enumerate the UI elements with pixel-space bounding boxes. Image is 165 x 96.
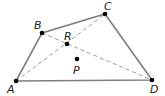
label-D: D	[150, 83, 158, 96]
label-A: A	[6, 83, 15, 96]
diagonal-AC	[16, 14, 105, 81]
quadrilateral-diagram: A B C D R P	[0, 0, 165, 96]
point-P	[75, 57, 80, 62]
label-P: P	[73, 64, 80, 77]
label-B: B	[34, 19, 42, 32]
label-R: R	[64, 30, 72, 43]
point-D	[150, 78, 155, 83]
label-C: C	[104, 0, 112, 13]
